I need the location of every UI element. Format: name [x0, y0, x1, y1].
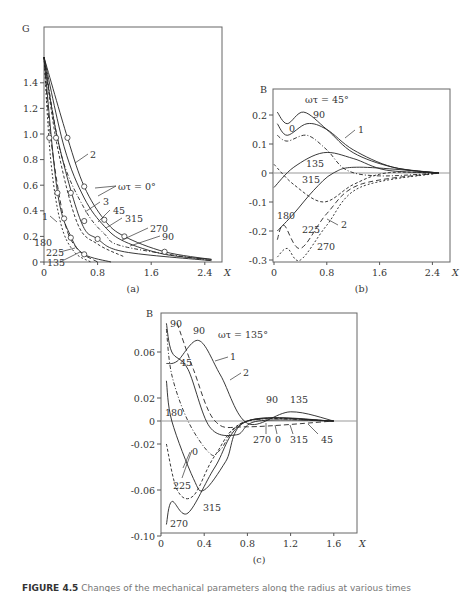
curve-annotation: 45	[113, 205, 125, 216]
leader-line	[230, 373, 241, 380]
x-tick-label: 1.2	[283, 538, 298, 549]
curve-annotation: 90	[313, 109, 325, 120]
leader-line	[290, 425, 293, 434]
leader-line	[275, 425, 277, 434]
leader-line	[106, 218, 122, 228]
x-tick-label: 2.4	[197, 267, 212, 278]
panel-c: -0.10-0.06-0.0200.020.0600.40.81.21.6BX(…	[131, 308, 367, 565]
x-tick-label: 1.6	[326, 538, 341, 549]
x-tick-label: 1.6	[372, 267, 387, 278]
caption-label: FIGURE 4.5	[22, 583, 78, 592]
series-line	[274, 152, 439, 187]
y-tick-label: -0.2	[249, 226, 267, 237]
panel-label: (b)	[355, 283, 369, 294]
y-tick-label: 0.1	[252, 139, 267, 150]
curve-annotation: 135	[290, 394, 308, 405]
x-tick-label: 0	[41, 267, 47, 278]
y-tick-label: 0.06	[134, 347, 155, 358]
data-marker	[55, 190, 60, 195]
curve-annotation: 1	[42, 211, 48, 222]
x-tick-label: 0	[158, 538, 164, 549]
series-line	[44, 57, 111, 262]
data-marker	[62, 216, 67, 221]
data-marker	[53, 135, 58, 140]
leader-line	[308, 424, 318, 434]
series-line	[44, 57, 212, 259]
x-axis-label: X	[223, 267, 232, 278]
series-line	[166, 340, 333, 424]
y-axis-label: B	[260, 84, 267, 95]
x-tick-label: 0.8	[240, 538, 255, 549]
curve-annotation: 1	[230, 351, 236, 362]
x-tick-label: 0.4	[197, 538, 212, 549]
plot-frame	[161, 313, 357, 533]
curve-annotation: 0	[192, 446, 198, 457]
data-marker	[68, 190, 73, 195]
curve-annotation: 90	[193, 325, 205, 336]
curve-annotation: 180	[165, 407, 183, 418]
curve-annotation: 2	[243, 367, 249, 378]
y-tick-label: 1.0	[23, 129, 38, 140]
curve-annotation: 2	[341, 219, 347, 230]
panel-label: (a)	[126, 283, 139, 294]
curve-annotation: 270	[253, 434, 271, 445]
x-tick-label: 1.6	[144, 267, 159, 278]
x-tick-label: 2.4	[425, 267, 440, 278]
data-marker	[68, 235, 73, 240]
figure-caption: FIGURE 4.5 Changes of the mechanical par…	[22, 583, 462, 592]
caption-text: Changes of the mechanical parameters alo…	[81, 583, 411, 592]
series-line	[166, 418, 333, 498]
series-line	[44, 57, 212, 259]
curve-annotation: ωτ = 0°	[118, 181, 156, 192]
y-axis-label: G	[22, 23, 30, 34]
curve-annotation: 135	[306, 158, 324, 169]
curve-annotation: 90	[162, 231, 174, 242]
y-tick-label: -0.1	[249, 197, 267, 208]
panel-label: (c)	[253, 554, 266, 565]
panel-b: -0.3-0.2-0.100.10.200.81.62.4BX(b)ωτ = 4…	[249, 84, 460, 294]
curve-annotation: 0	[275, 434, 281, 445]
curve-annotation: 315	[125, 213, 143, 224]
curve-annotation: 225	[302, 224, 320, 235]
curve-annotation: 3	[103, 196, 109, 207]
y-tick-label: 0	[261, 168, 267, 179]
curve-annotation: 90	[170, 318, 182, 329]
series-line	[166, 329, 333, 456]
y-tick-label: 0.6	[23, 180, 38, 191]
curve-annotation: 2	[90, 149, 96, 160]
leader-line	[345, 130, 355, 138]
data-marker	[82, 218, 87, 223]
series-line	[166, 323, 333, 435]
series-line	[44, 57, 91, 262]
curve-annotation: 180	[277, 210, 295, 221]
curve-annotation: 45	[180, 357, 192, 368]
data-marker	[162, 249, 167, 254]
y-tick-label: 0	[149, 416, 155, 427]
data-marker	[65, 135, 70, 140]
curve-annotation: 225	[173, 480, 191, 491]
curve-annotation: 0	[289, 123, 295, 134]
curve-annotation: 270	[317, 241, 335, 252]
x-tick-label: 0.8	[319, 267, 334, 278]
leader-line	[327, 219, 338, 225]
y-tick-label: 0.02	[134, 393, 155, 404]
leader-line	[50, 216, 57, 222]
x-tick-label: 0	[271, 267, 277, 278]
y-tick-label: 1.4	[23, 77, 38, 88]
curve-annotation: ωτ = 135°	[218, 329, 268, 340]
y-tick-label: 1.2	[23, 103, 38, 114]
x-axis-label: X	[451, 267, 460, 278]
series-line	[277, 112, 439, 173]
y-tick-label: 0.4	[23, 205, 38, 216]
data-marker	[82, 252, 87, 257]
curve-annotation: 45	[321, 434, 333, 445]
curve-annotation: 270	[170, 518, 188, 529]
y-tick-label: -0.3	[249, 255, 267, 266]
y-tick-label: 0.2	[252, 110, 267, 121]
curve-annotation: 315	[203, 502, 221, 513]
y-tick-label: -0.02	[131, 439, 155, 450]
series-line	[166, 418, 333, 525]
x-tick-label: 0.8	[90, 267, 105, 278]
panel-a: 00.20.40.60.81.01.21.400.81.62.4GX(a)2ωτ…	[22, 23, 232, 294]
y-tick-label: 0.8	[23, 154, 38, 165]
